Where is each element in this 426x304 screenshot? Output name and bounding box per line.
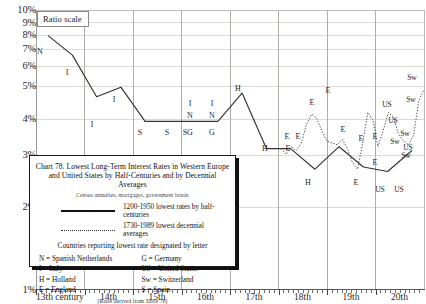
series-letter-solid: G — [187, 129, 193, 137]
series-letter-dotted: E — [296, 133, 301, 141]
series-letter-solid: I — [66, 69, 69, 77]
legend-country-key: N = Spanish Netherlands I = Italy H = Ho… — [35, 254, 230, 295]
legend-country-key-left: N = Spanish Netherlands I = Italy H = Ho… — [35, 254, 128, 295]
series-letter-solid: I — [91, 121, 94, 129]
series-letter-solid: I — [211, 100, 214, 108]
series-letter-solid: H — [262, 145, 268, 153]
legend-key-item: S = Spain — [142, 285, 231, 295]
series-letter-dotted: Sw — [400, 130, 410, 138]
series-letter-solid: N — [187, 112, 193, 120]
legend-key-item: E = England — [39, 285, 128, 295]
series-letter-dotted: E — [359, 135, 364, 143]
series-letter-dotted: US — [403, 144, 413, 152]
chart-title: Chart 78. Lowest Long-Term Interest Rate… — [35, 162, 230, 190]
chart-legend-box: Chart 78. Lowest Long-Term Interest Rate… — [29, 155, 236, 267]
series-letter-solid: H — [305, 179, 311, 187]
series-letter-solid: US — [375, 186, 385, 194]
legend-key-item: Sw = Switzerland — [142, 275, 231, 285]
legend-swatch-solid — [61, 208, 115, 214]
series-letter-dotted: E — [373, 133, 378, 141]
legend-label-dotted: 1730-1989 lowest decennial averages — [123, 222, 230, 238]
series-letter-solid: G — [209, 129, 215, 137]
legend-swatch-dotted — [61, 227, 115, 233]
chart-source-note: (Rates derived from Table 76) — [35, 298, 230, 304]
legend-key-item: I = Italy — [39, 264, 128, 274]
series-letter-solid: S — [138, 129, 142, 137]
series-letter-solid: N — [209, 112, 215, 120]
legend-key-item: G = Germany — [142, 254, 231, 264]
legend-key-item: H = Holland — [39, 275, 128, 285]
series-letter-solid: H — [235, 85, 241, 93]
series-letter-solid: N — [37, 48, 43, 56]
series-letter-dotted: E — [310, 99, 315, 107]
legend-key-item: US = United States — [142, 264, 231, 274]
series-letter-dotted: Sw — [407, 74, 417, 82]
series-letter-dotted: Sw — [390, 138, 400, 146]
series-letter-dotted: Sw — [401, 152, 411, 160]
series-letter-dotted: US — [382, 101, 392, 109]
legend-entry-dotted: 1730-1989 lowest decennial averages — [35, 222, 230, 238]
legend-key-note: Countries reporting lowest rate designat… — [35, 242, 230, 250]
series-letter-solid: US — [394, 186, 404, 194]
legend-entry-solid: 1200-1950 lowest rates by half-centuries — [35, 203, 230, 219]
series-letter-solid: S — [165, 129, 169, 137]
series-letter-dotted: E — [326, 87, 331, 95]
series-letter-dotted: US — [388, 117, 398, 125]
series-letter-dotted: Sw — [406, 96, 416, 104]
series-letter-solid: E — [354, 179, 359, 187]
series-letter-solid: E — [373, 159, 378, 167]
series-letter-solid: I — [189, 100, 192, 108]
chart-subtitle: Census annuities, mortgages, government … — [35, 191, 230, 199]
series-letter-dotted: E — [285, 133, 290, 141]
series-letter-dotted: E — [341, 126, 346, 134]
series-letter-solid: I — [113, 96, 116, 104]
series-letter-solid: E — [286, 145, 291, 153]
legend-key-item: N = Spanish Netherlands — [39, 254, 128, 264]
legend-label-solid: 1200-1950 lowest rates by half-centuries — [123, 203, 230, 219]
series-line-half-centuries — [48, 36, 412, 172]
legend-country-key-right: G = Germany US = United States Sw = Swit… — [128, 254, 231, 295]
